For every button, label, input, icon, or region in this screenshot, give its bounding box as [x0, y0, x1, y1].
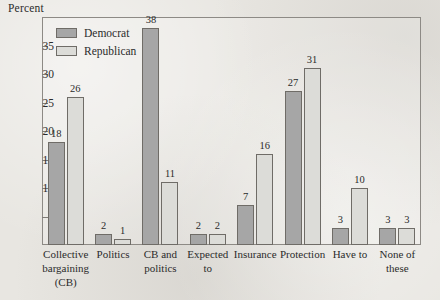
- bar-value-label: 31: [307, 54, 318, 65]
- bar-value-label: 18: [51, 128, 62, 139]
- bar-chart: Percent 5101520253035 182621381122716273…: [0, 0, 440, 300]
- bar-value-label: 26: [70, 83, 81, 94]
- x-category-label: Collectivebargaining(CB): [42, 247, 89, 289]
- legend-item-republican[interactable]: Republican: [56, 43, 136, 59]
- x-category-label: CB andpolitics: [144, 247, 177, 275]
- x-category-label-line: Have to: [333, 247, 368, 261]
- bar-republican: [67, 97, 84, 245]
- chart-legend: DemocratRepublican: [56, 25, 136, 61]
- bar-value-label: 2: [215, 220, 220, 231]
- x-category-label-line: Insurance: [234, 247, 277, 261]
- x-category-label: None ofthese: [379, 247, 415, 275]
- bar-value-label: 38: [146, 14, 157, 25]
- y-axis-title: Percent: [8, 2, 44, 14]
- bar-republican: [114, 239, 131, 245]
- bar-democrat: [379, 228, 396, 245]
- bar-republican: [351, 188, 368, 245]
- bar-value-label: 3: [404, 214, 409, 225]
- bar-value-label: 3: [338, 214, 343, 225]
- bar-value-label: 2: [196, 220, 201, 231]
- bar-value-label: 16: [259, 140, 270, 151]
- bar-republican: [398, 228, 415, 245]
- bar-value-label: 7: [243, 191, 248, 202]
- bar-value-label: 10: [354, 174, 365, 185]
- x-category-label-line: (CB): [42, 275, 89, 289]
- x-category-label: Expectedto: [187, 247, 228, 275]
- bar-value-label: 1: [120, 225, 125, 236]
- x-category-label-line: Protection: [280, 247, 325, 261]
- x-category-label-line: to: [187, 261, 228, 275]
- x-category-label-line: Collective: [42, 247, 89, 261]
- legend-swatch-icon: [56, 46, 77, 56]
- x-category-label-line: politics: [144, 261, 177, 275]
- bar-democrat: [237, 205, 254, 245]
- bar-republican: [304, 68, 321, 245]
- bar-republican: [209, 234, 226, 245]
- x-category-label-line: CB and: [144, 247, 177, 261]
- x-category-label: Politics: [97, 247, 130, 261]
- legend-swatch-icon: [56, 28, 77, 38]
- x-axis-category-labels: Collectivebargaining(CB)PoliticsCB andpo…: [42, 247, 421, 299]
- legend-item-democrat[interactable]: Democrat: [56, 25, 136, 41]
- x-category-label: Protection: [280, 247, 325, 261]
- bar-value-label: 2: [101, 220, 106, 231]
- bar-democrat: [95, 234, 112, 245]
- x-category-label-line: Expected: [187, 247, 228, 261]
- bar-democrat: [332, 228, 349, 245]
- bar-value-label: 11: [165, 168, 175, 179]
- x-category-label-line: bargaining: [42, 261, 89, 275]
- bar-democrat: [190, 234, 207, 245]
- legend-item-label: Democrat: [84, 27, 129, 39]
- bar-democrat: [142, 28, 159, 245]
- bar-republican: [161, 182, 178, 245]
- bar-republican: [256, 154, 273, 245]
- x-category-label: Insurance: [234, 247, 277, 261]
- x-category-label-line: these: [379, 261, 415, 275]
- bar-value-label: 3: [385, 214, 390, 225]
- x-category-label: Have to: [333, 247, 368, 261]
- x-category-label-line: Politics: [97, 247, 130, 261]
- bar-democrat: [285, 91, 302, 245]
- bar-value-label: 27: [288, 77, 299, 88]
- bar-democrat: [48, 142, 65, 245]
- x-category-label-line: None of: [379, 247, 415, 261]
- legend-item-label: Republican: [84, 45, 136, 57]
